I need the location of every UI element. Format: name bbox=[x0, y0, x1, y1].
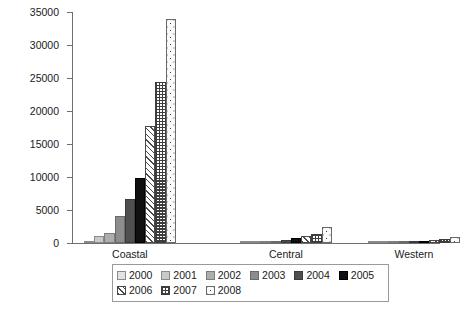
x-axis-line bbox=[72, 243, 440, 244]
bar-central-2006 bbox=[301, 236, 311, 243]
legend-entry-2007[interactable]: 2007 bbox=[161, 285, 196, 296]
legend-swatch-2005 bbox=[339, 271, 348, 280]
legend-swatch-2006 bbox=[117, 286, 126, 295]
legend-swatch-2002 bbox=[206, 271, 215, 280]
legend-swatch-2000 bbox=[117, 271, 126, 280]
y-axis-tick-label: 25000 bbox=[30, 73, 59, 84]
legend-label-2001: 2001 bbox=[173, 270, 196, 281]
bar-coastal-2000 bbox=[84, 241, 94, 243]
legend-label-2002: 2002 bbox=[218, 270, 241, 281]
bar-coastal-2001 bbox=[94, 236, 104, 243]
legend-entry-2000[interactable]: 2000 bbox=[117, 270, 152, 281]
legend-swatch-2007 bbox=[161, 286, 170, 295]
bar-coastal-2006 bbox=[145, 126, 155, 243]
y-axis-tick: 5000 bbox=[67, 210, 72, 211]
bar-western-2004 bbox=[409, 241, 419, 243]
bar-western-2005 bbox=[419, 241, 429, 243]
x-axis-label-central: Central bbox=[269, 248, 303, 260]
y-axis-tick: 30000 bbox=[67, 45, 72, 46]
bar-central-2003 bbox=[271, 241, 281, 243]
y-axis-line bbox=[72, 12, 73, 244]
bar-coastal-2004 bbox=[125, 199, 135, 243]
bar-coastal-2008 bbox=[166, 19, 176, 243]
legend-label-2005: 2005 bbox=[351, 270, 374, 281]
y-axis-tick: 10000 bbox=[67, 177, 72, 178]
bar-western-2002 bbox=[388, 241, 398, 243]
legend-entry-2008[interactable]: 2008 bbox=[206, 285, 241, 296]
x-axis-label-coastal: Coastal bbox=[112, 248, 148, 260]
y-axis-tick: 0 bbox=[67, 243, 72, 244]
y-axis-tick: 15000 bbox=[67, 144, 72, 145]
legend-label-2007: 2007 bbox=[173, 285, 196, 296]
bar-western-2003 bbox=[399, 241, 409, 243]
bar-coastal-2002 bbox=[104, 233, 114, 243]
x-axis-label-western: Western bbox=[394, 248, 433, 260]
bar-central-2001 bbox=[250, 241, 260, 243]
legend-swatch-2003 bbox=[250, 271, 259, 280]
bar-central-2002 bbox=[260, 241, 270, 243]
bar-western-2008 bbox=[450, 237, 460, 243]
legend-swatch-2008 bbox=[206, 286, 215, 295]
legend-swatch-2001 bbox=[161, 271, 170, 280]
bar-western-2006 bbox=[429, 240, 439, 243]
y-axis-tick-label: 30000 bbox=[30, 40, 59, 51]
y-axis-tick: 20000 bbox=[67, 111, 72, 112]
legend-entry-2004[interactable]: 2004 bbox=[294, 270, 329, 281]
y-axis-tick: 35000 bbox=[67, 12, 72, 13]
bar-coastal-2007 bbox=[155, 82, 165, 243]
bar-coastal-2005 bbox=[135, 178, 145, 243]
legend-label-2004: 2004 bbox=[306, 270, 329, 281]
bar-central-2005 bbox=[291, 238, 301, 243]
bar-western-2001 bbox=[378, 241, 388, 243]
chart-legend: 200020012002200320042005200620072008 bbox=[112, 264, 389, 302]
legend-row-1: 200020012002200320042005 bbox=[117, 268, 383, 283]
bar-central-2008 bbox=[322, 227, 332, 243]
legend-label-2006: 2006 bbox=[129, 285, 152, 296]
bar-central-2004 bbox=[281, 240, 291, 243]
y-axis-tick-label: 10000 bbox=[30, 172, 59, 183]
y-axis-tick: 25000 bbox=[67, 78, 72, 79]
plot-area: 05000100001500020000250003000035000 Coas… bbox=[72, 12, 440, 244]
legend-entry-2005[interactable]: 2005 bbox=[339, 270, 374, 281]
legend-label-2000: 2000 bbox=[129, 270, 152, 281]
legend-entry-2003[interactable]: 2003 bbox=[250, 270, 285, 281]
legend-row-2: 200620072008 bbox=[117, 283, 383, 298]
bar-central-2007 bbox=[311, 234, 321, 243]
bar-coastal-2003 bbox=[115, 216, 125, 243]
y-axis-tick-label: 0 bbox=[53, 238, 59, 249]
bar-central-2000 bbox=[240, 241, 250, 243]
legend-entry-2001[interactable]: 2001 bbox=[161, 270, 196, 281]
legend-swatch-2004 bbox=[294, 271, 303, 280]
bar-western-2000 bbox=[368, 241, 378, 243]
legend-entry-2002[interactable]: 2002 bbox=[206, 270, 241, 281]
y-axis-tick-label: 35000 bbox=[30, 7, 59, 18]
legend-label-2008: 2008 bbox=[218, 285, 241, 296]
y-axis-tick-label: 15000 bbox=[30, 139, 59, 150]
bar-western-2007 bbox=[439, 239, 449, 243]
y-axis-tick-label: 5000 bbox=[36, 205, 59, 216]
legend-label-2003: 2003 bbox=[262, 270, 285, 281]
y-axis-tick-label: 20000 bbox=[30, 106, 59, 117]
legend-entry-2006[interactable]: 2006 bbox=[117, 285, 152, 296]
